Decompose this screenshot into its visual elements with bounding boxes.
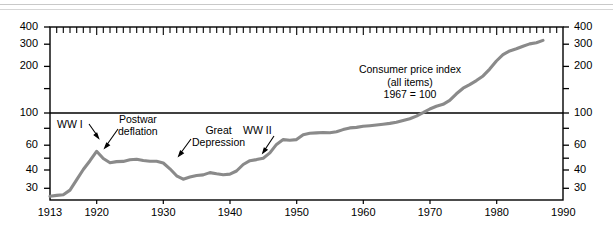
x-axis-label-1980: 1980 bbox=[477, 207, 517, 218]
chart-title-line2: (all items) bbox=[315, 76, 505, 89]
annotation-ww1: WW I bbox=[57, 118, 83, 130]
top-axis-ticks bbox=[57, 27, 557, 35]
annotation-great-depression: Great Depression bbox=[192, 124, 245, 148]
y-axis-label-left-100: 100 bbox=[8, 107, 38, 118]
y-axis-label-left-40: 40 bbox=[8, 164, 38, 175]
y-axis-label-right-60: 60 bbox=[574, 139, 608, 150]
right-axis-ticks bbox=[563, 27, 569, 188]
x-axis-label-1920: 1920 bbox=[77, 207, 117, 218]
x-axis-label-1940: 1940 bbox=[210, 207, 250, 218]
x-axis-label-1913: 1913 bbox=[30, 207, 70, 218]
annotation-ww2: WW II bbox=[243, 124, 272, 136]
consumer-price-index-figure: 400 300 200 100 60 40 30 400 300 200 100… bbox=[0, 0, 613, 230]
x-axis-label-1990: 1990 bbox=[543, 207, 583, 218]
annotation-great-depression-line1: Great bbox=[192, 124, 245, 136]
postwar-deflation-arrow bbox=[105, 129, 118, 148]
y-axis-label-left-200: 200 bbox=[8, 60, 38, 71]
y-axis-label-left-30: 30 bbox=[8, 182, 38, 193]
left-axis-ticks bbox=[44, 27, 50, 188]
y-axis-label-right-300: 300 bbox=[574, 38, 608, 49]
y-axis-label-left-400: 400 bbox=[8, 21, 38, 32]
x-axis-label-1960: 1960 bbox=[343, 207, 383, 218]
x-axis-label-1930: 1930 bbox=[143, 207, 183, 218]
annotation-great-depression-line2: Depression bbox=[192, 136, 245, 148]
x-axis-label-1970: 1970 bbox=[410, 207, 450, 218]
annotation-postwar-deflation-line1: Postwar bbox=[118, 113, 158, 125]
chart-title-block: Consumer price index (all items) 1967 = … bbox=[315, 63, 505, 101]
y-axis-label-left-60: 60 bbox=[8, 139, 38, 150]
chart-title-line1: Consumer price index bbox=[315, 63, 505, 76]
chart-canvas bbox=[0, 0, 613, 230]
y-axis-label-right-200: 200 bbox=[574, 60, 608, 71]
x-axis-label-1950: 1950 bbox=[277, 207, 317, 218]
annotation-postwar-deflation-line2: deflation bbox=[118, 125, 158, 137]
y-axis-label-right-30: 30 bbox=[574, 182, 608, 193]
annotation-postwar-deflation: Postwar deflation bbox=[118, 113, 158, 137]
y-axis-label-right-100: 100 bbox=[574, 107, 608, 118]
chart-title-line3: 1967 = 100 bbox=[315, 88, 505, 101]
y-axis-label-right-40: 40 bbox=[574, 164, 608, 175]
y-axis-label-right-400: 400 bbox=[574, 21, 608, 32]
great-depression-arrow bbox=[179, 139, 191, 156]
ww1-arrow bbox=[89, 124, 99, 138]
y-axis-label-left-300: 300 bbox=[8, 38, 38, 49]
